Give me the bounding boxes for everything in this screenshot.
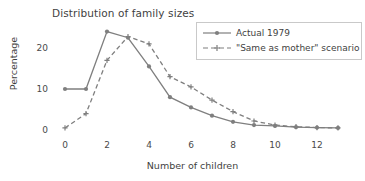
data-point bbox=[168, 95, 172, 99]
data-point bbox=[230, 109, 235, 114]
data-point bbox=[314, 125, 319, 130]
data-point bbox=[105, 30, 109, 34]
legend-solid-line-circle-icon bbox=[202, 27, 232, 39]
data-point bbox=[335, 125, 340, 130]
data-point bbox=[189, 105, 193, 109]
legend-item-actual-1979[interactable]: Actual 1979 bbox=[202, 26, 290, 40]
data-point bbox=[251, 118, 256, 123]
data-point bbox=[293, 124, 298, 129]
legend-label-same-as-mother: "Same as mother" scenario bbox=[236, 43, 359, 53]
data-point bbox=[210, 114, 214, 118]
data-point bbox=[252, 123, 256, 127]
data-point bbox=[231, 120, 235, 124]
legend-label-actual-1979: Actual 1979 bbox=[236, 28, 290, 38]
data-point bbox=[63, 87, 67, 91]
legend-item-same-as-mother[interactable]: "Same as mother" scenario bbox=[202, 41, 359, 55]
data-point bbox=[84, 87, 88, 91]
data-point bbox=[188, 84, 193, 89]
chart-figure: Distribution of family sizes Percentage … bbox=[0, 0, 365, 181]
legend-dashed-line-plus-icon bbox=[202, 42, 232, 54]
data-point bbox=[147, 64, 151, 68]
chart-legend: Actual 1979 "Same as mother" scenario bbox=[196, 22, 362, 60]
